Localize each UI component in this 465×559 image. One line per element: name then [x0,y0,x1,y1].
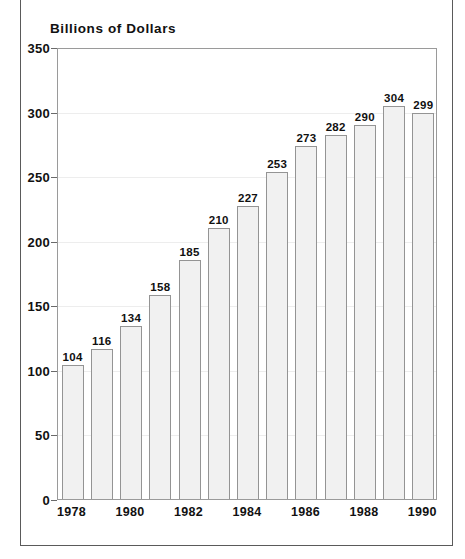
bar-value-label-1982: 185 [179,246,199,258]
bar-value-label-1983: 210 [209,214,229,226]
bar-value-label-1980: 134 [121,312,141,324]
bar-rect-1985 [266,172,288,499]
bar-rect-1981 [149,295,171,499]
y-tick-label-300: 300 [6,105,50,120]
bar-rect-1983 [208,228,230,499]
bar-1982[interactable]: 185 [179,47,201,499]
bar-1985[interactable]: 253 [266,47,288,499]
x-tick-label-1978: 1978 [57,505,86,519]
bar-rect-1982 [179,260,201,499]
x-tick-label-1980: 1980 [116,505,145,519]
y-tick-label-0: 0 [6,493,50,508]
bar-1983[interactable]: 210 [208,47,230,499]
y-tick-label-250: 250 [6,170,50,185]
bar-rect-1979 [91,349,113,499]
x-tick-label-1982: 1982 [174,505,203,519]
bar-1980[interactable]: 134 [120,47,142,499]
bar-value-label-1985: 253 [267,158,287,170]
y-axis: 050100150200250300350 [0,0,50,559]
bar-1984[interactable]: 227 [237,47,259,499]
x-tick-label-1984: 1984 [232,505,261,519]
bar-value-label-1979: 116 [92,335,111,347]
bar-1981[interactable]: 158 [149,47,171,499]
bar-rect-1984 [237,206,259,499]
y-tick-mark-350 [51,48,57,49]
y-tick-mark-100 [51,371,57,372]
y-tick-label-350: 350 [6,41,50,56]
bar-value-label-1990: 299 [413,99,433,111]
bar-rect-1986 [295,146,317,499]
bar-rect-1978 [62,365,84,499]
y-tick-mark-50 [51,435,57,436]
bar-value-label-1988: 290 [355,111,375,123]
bar-value-label-1986: 273 [296,132,316,144]
bar-1987[interactable]: 282 [325,47,347,499]
bar-1988[interactable]: 290 [354,47,376,499]
bar-rect-1988 [354,125,376,500]
x-tick-label-1988: 1988 [349,505,378,519]
y-tick-mark-300 [51,113,57,114]
bar-1979[interactable]: 116 [91,47,113,499]
x-axis: 1978198019821984198619881990 [57,505,437,529]
bar-chart-figure: Billions of Dollars 05010015020025030035… [0,0,465,559]
y-tick-label-150: 150 [6,299,50,314]
y-tick-label-200: 200 [6,234,50,249]
y-tick-mark-200 [51,242,57,243]
x-tick-label-1990: 1990 [408,505,437,519]
bar-rect-1980 [120,326,142,499]
bar-rect-1989 [383,106,405,499]
bar-1978[interactable]: 104 [62,47,84,499]
bar-value-label-1981: 158 [150,281,170,293]
y-tick-mark-150 [51,306,57,307]
bar-value-label-1978: 104 [63,351,83,363]
bar-value-label-1984: 227 [238,192,258,204]
bar-value-label-1989: 304 [384,92,404,104]
plot-area: 104116134158185210227253273282290304299 [57,48,437,500]
chart-title: Billions of Dollars [50,21,176,36]
bar-value-label-1987: 282 [326,121,346,133]
y-tick-label-50: 50 [6,428,50,443]
y-tick-mark-0 [51,500,57,501]
bar-rect-1987 [325,135,347,499]
bar-rect-1990 [412,113,434,499]
y-tick-label-100: 100 [6,363,50,378]
bar-1989[interactable]: 304 [383,47,405,499]
bar-1986[interactable]: 273 [295,47,317,499]
bar-1990[interactable]: 299 [412,47,434,499]
y-tick-mark-250 [51,177,57,178]
x-tick-label-1986: 1986 [291,505,320,519]
